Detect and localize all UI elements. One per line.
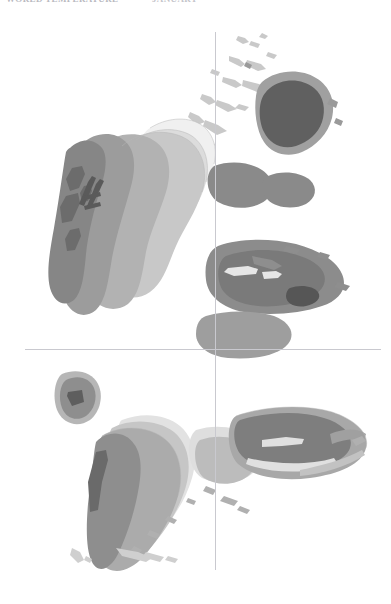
map-canvas <box>0 0 391 604</box>
north-atlantic-cold-pool <box>208 163 315 208</box>
prime-meridian-line <box>215 32 216 570</box>
northwest-south-landmass <box>55 371 101 424</box>
africa-tropics-band <box>196 312 292 359</box>
equator-line <box>25 349 381 350</box>
world-temperature-map-figure: WORLD TEMPERATURE JANUARY <box>0 0 391 604</box>
